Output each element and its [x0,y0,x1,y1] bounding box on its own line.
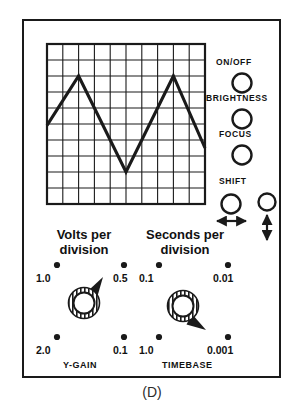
y-gain-heading: Volts per division [37,228,131,258]
y-gain-value-top-left[interactable]: 1.0 [36,272,51,284]
brightness-label: BRIGHTNESS [206,94,268,103]
timebase-value-bottom-right[interactable]: 0.001 [207,344,233,356]
y-gain-heading-line1: Volts per [57,227,112,242]
timebase-name-label: TIMEBASE [162,360,213,370]
timebase-value-top-left[interactable]: 0.1 [139,272,154,284]
figure-root: ON/OFF BRIGHTNESS FOCUS SHIFT Volts per … [0,0,304,414]
oscilloscope-panel [22,19,281,378]
timebase-heading: Seconds per division [138,228,232,258]
y-gain-value-bottom-left[interactable]: 2.0 [36,344,51,356]
on-off-label: ON/OFF [216,58,252,67]
focus-label: FOCUS [219,130,252,139]
figure-caption: (D) [0,384,304,400]
y-gain-value-top-right[interactable]: 0.5 [113,272,128,284]
y-gain-name-label: Y-GAIN [63,360,97,370]
y-gain-heading-line2: division [59,242,108,257]
timebase-heading-line1: Seconds per [146,227,224,242]
y-gain-value-bottom-right[interactable]: 0.1 [113,344,128,356]
timebase-value-top-right[interactable]: 0.01 [213,272,233,284]
timebase-value-bottom-left[interactable]: 1.0 [139,344,154,356]
shift-label: SHIFT [219,177,247,186]
timebase-heading-line2: division [160,242,209,257]
